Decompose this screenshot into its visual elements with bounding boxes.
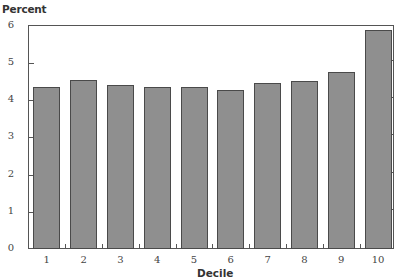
y-tick-label: 2 [2,168,14,179]
bar-decile-10 [365,30,392,249]
bar-decile-6 [217,90,244,249]
y-tick [28,63,34,64]
bar-decile-7 [254,83,281,249]
y-tick-label: 0 [2,242,14,253]
y-axis-title: Percent [2,3,46,15]
x-tick [249,244,250,249]
bar-decile-1 [33,87,60,249]
x-tick-label: 10 [366,254,390,265]
bar-decile-4 [144,87,171,249]
bar-decile-3 [107,85,134,249]
x-tick [65,244,66,249]
x-tick-label: 9 [329,254,353,265]
x-tick [286,244,287,249]
x-tick-label: 6 [219,254,243,265]
x-tick [176,244,177,249]
x-tick [139,244,140,249]
bar-decile-9 [328,72,355,249]
y-tick-label: 3 [2,130,14,141]
x-tick-label: 7 [256,254,280,265]
y-tick-label: 5 [2,56,14,67]
x-tick [360,244,361,249]
x-tick-label: 2 [72,254,96,265]
bar-decile-5 [181,87,208,249]
y-tick-label: 1 [2,205,14,216]
x-tick [212,244,213,249]
x-tick-label: 4 [145,254,169,265]
bar-decile-2 [70,80,97,249]
x-tick-label: 1 [35,254,59,265]
y-tick-label: 4 [2,93,14,104]
x-axis-title: Decile [197,267,233,279]
x-tick-label: 3 [108,254,132,265]
x-tick [102,244,103,249]
x-tick-label: 8 [292,254,316,265]
y-tick-label: 6 [2,19,14,30]
bar-decile-8 [291,81,318,249]
x-tick [323,244,324,249]
x-tick-label: 5 [182,254,206,265]
